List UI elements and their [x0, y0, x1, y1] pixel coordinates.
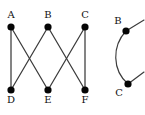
- vertex-label-d: D: [7, 94, 15, 105]
- vertex-c-right: [124, 80, 131, 87]
- figure-background: [0, 0, 145, 115]
- vertex-label-b: B: [44, 9, 51, 20]
- vertex-label-a: A: [6, 9, 15, 20]
- vertex-f: [81, 86, 88, 93]
- graph-figure-canvas: A B C D E F B C: [0, 0, 145, 115]
- vertex-e: [44, 86, 51, 93]
- vertex-b-right: [122, 27, 129, 34]
- vertex-label-c-right: C: [115, 87, 123, 98]
- vertex-c: [81, 23, 88, 30]
- vertex-a: [7, 23, 14, 30]
- vertex-d: [7, 86, 14, 93]
- vertex-label-e: E: [44, 94, 51, 105]
- vertex-label-b-right: B: [114, 15, 121, 26]
- vertex-label-f: F: [82, 94, 89, 105]
- figure-container: A B C D E F B C: [0, 0, 145, 115]
- vertex-label-c: C: [81, 9, 89, 20]
- vertex-b: [44, 23, 51, 30]
